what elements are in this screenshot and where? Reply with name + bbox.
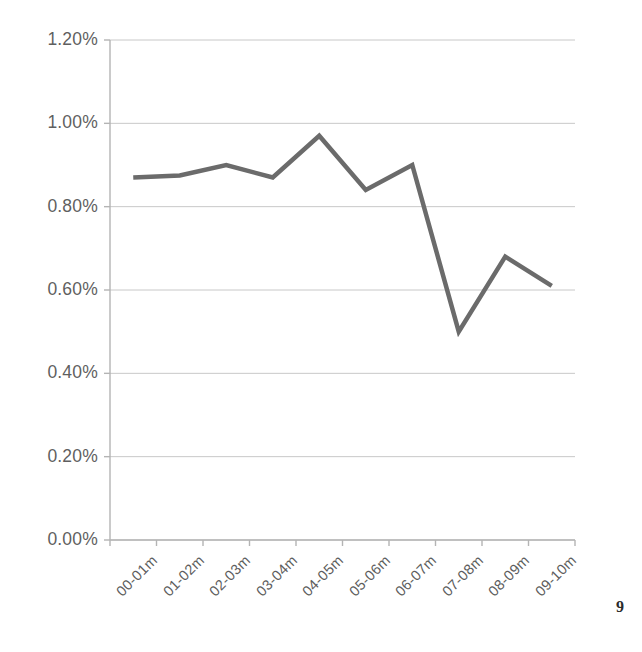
- page-number: 9: [616, 598, 624, 616]
- y-axis-tick-label: 0.80%: [20, 196, 98, 217]
- y-axis-tick-label: 0.40%: [20, 362, 98, 383]
- gridlines: [110, 40, 575, 540]
- x-axis-ticks: [110, 540, 575, 546]
- chart-plot-area: [0, 0, 642, 652]
- y-axis-ticks: [104, 40, 110, 540]
- line-chart-figure: 0.00%0.20%0.40%0.60%0.80%1.00%1.20% 00-0…: [0, 0, 642, 652]
- y-axis-tick-label: 0.00%: [20, 529, 98, 550]
- y-axis-tick-label: 0.60%: [20, 279, 98, 300]
- y-axis-tick-label: 1.00%: [20, 112, 98, 133]
- y-axis-tick-label: 1.20%: [20, 29, 98, 50]
- data-series-line: [133, 136, 552, 332]
- y-axis-tick-label: 0.20%: [20, 446, 98, 467]
